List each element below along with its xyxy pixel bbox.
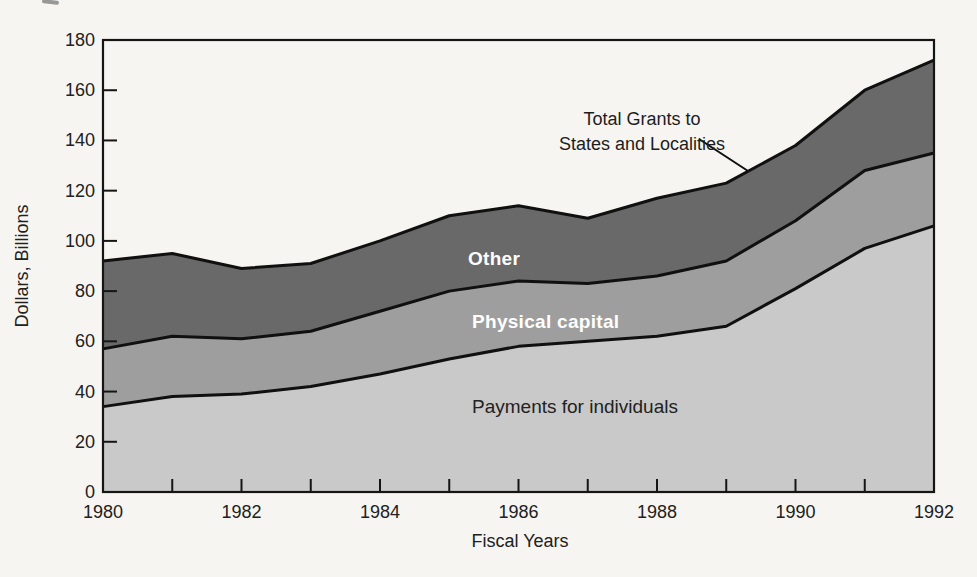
stacked-area-chart bbox=[0, 0, 977, 577]
x-tick-label: 1984 bbox=[345, 502, 415, 522]
y-tick-label: 160 bbox=[49, 80, 95, 100]
annotation-line1: Total Grants to bbox=[528, 107, 756, 132]
y-tick-label: 0 bbox=[49, 482, 95, 502]
x-axis-title: Fiscal Years bbox=[380, 531, 660, 552]
x-tick-label: 1980 bbox=[68, 502, 138, 522]
y-tick-label: 120 bbox=[49, 181, 95, 201]
total-grants-annotation: Total Grants to States and Localities bbox=[528, 107, 756, 157]
y-axis-title: Dollars, Billions bbox=[12, 204, 33, 327]
series-label-payments-for-individuals: Payments for individuals bbox=[472, 396, 678, 418]
y-tick-label: 40 bbox=[49, 382, 95, 402]
x-tick-label: 1990 bbox=[761, 502, 831, 522]
series-label-other: Other bbox=[468, 248, 520, 270]
x-tick-label: 1992 bbox=[899, 502, 969, 522]
x-tick-label: 1988 bbox=[622, 502, 692, 522]
y-tick-label: 20 bbox=[49, 432, 95, 452]
y-tick-label: 180 bbox=[49, 30, 95, 50]
x-tick-label: 1982 bbox=[207, 502, 277, 522]
x-tick-label: 1986 bbox=[484, 502, 554, 522]
y-tick-label: 140 bbox=[49, 130, 95, 150]
y-tick-label: 80 bbox=[49, 281, 95, 301]
chart-page: 0204060801001201401601801980198219841986… bbox=[0, 0, 977, 577]
annotation-line2: States and Localities bbox=[528, 132, 756, 157]
y-tick-label: 100 bbox=[49, 231, 95, 251]
y-tick-label: 60 bbox=[49, 331, 95, 351]
series-label-physical-capital: Physical capital bbox=[472, 311, 619, 333]
